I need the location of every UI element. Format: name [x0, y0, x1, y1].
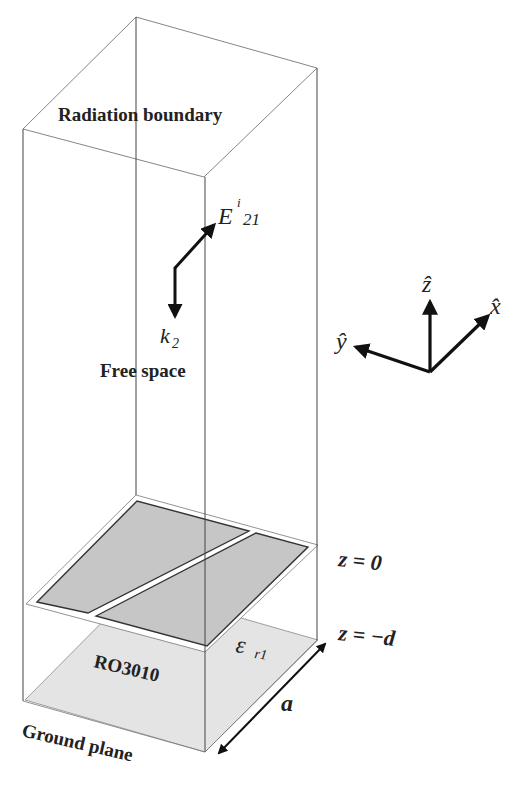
- e-field-subscript: 21: [243, 210, 260, 229]
- coordinate-axes: [356, 302, 488, 372]
- free-space-label: Free space: [100, 360, 186, 381]
- e-field-superscript: i: [237, 195, 241, 210]
- period-label: a: [281, 690, 293, 716]
- incident-field-arrows: [175, 225, 214, 316]
- unit-cell-diagram: Radiation boundary E i 21 k 2 Free space…: [0, 0, 529, 788]
- z-minus-d-label: z = −d: [336, 620, 397, 651]
- x-axis-label: x̂: [489, 293, 501, 319]
- e-field-label: E: [217, 203, 233, 229]
- y-axis-label: ŷ: [334, 328, 347, 354]
- z-zero-label: z = 0: [336, 546, 382, 575]
- k-vector-subscript: 2: [172, 336, 179, 351]
- z-axis-label: ẑ: [421, 271, 432, 297]
- radiation-boundary-label: Radiation boundary: [58, 104, 223, 125]
- permittivity-subscript: r1: [254, 646, 268, 663]
- k-vector-label: k: [160, 323, 171, 348]
